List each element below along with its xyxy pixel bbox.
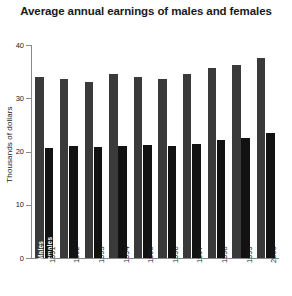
bar-males-1994 bbox=[109, 74, 118, 258]
bar-group-2000 bbox=[257, 45, 275, 258]
x-tick-label-1998: 1998 bbox=[220, 246, 229, 263]
plot-area: MalesFemales bbox=[32, 45, 278, 258]
bar-group-1991: MalesFemales bbox=[35, 45, 53, 258]
y-tick-0 bbox=[26, 258, 32, 259]
bar-males-1998 bbox=[208, 68, 217, 258]
bar-group-1992 bbox=[60, 45, 78, 258]
x-tick-label-1995: 1995 bbox=[146, 246, 155, 263]
y-tick-label-30: 30 bbox=[0, 95, 24, 102]
x-tick-label-2000: 2000 bbox=[269, 246, 278, 263]
bar-females-1994 bbox=[118, 146, 127, 258]
bar-group-1997 bbox=[183, 45, 201, 258]
bar-females-1997 bbox=[192, 144, 201, 258]
x-tick-label-1994: 1994 bbox=[122, 246, 131, 263]
x-tick-label-1991: 1991 bbox=[48, 246, 57, 263]
y-tick-label-20: 20 bbox=[0, 148, 24, 155]
x-tick-label-1996: 1996 bbox=[171, 246, 180, 263]
bar-group-1998 bbox=[208, 45, 226, 258]
y-tick-label-0: 0 bbox=[0, 255, 24, 262]
bar-chart: Average annual earnings of males and fem… bbox=[0, 0, 292, 296]
bar-males-2000 bbox=[257, 58, 266, 258]
bar-group-1996 bbox=[158, 45, 176, 258]
x-tick-label-1997: 1997 bbox=[195, 246, 204, 263]
bar-males-1996 bbox=[158, 79, 167, 258]
bar-females-1996 bbox=[168, 146, 177, 258]
y-tick-label-10: 10 bbox=[0, 201, 24, 208]
bar-males-1999 bbox=[232, 65, 241, 258]
bar-group-1999 bbox=[232, 45, 250, 258]
bar-group-1995 bbox=[134, 45, 152, 258]
y-axis-title: Thousands of dollars bbox=[5, 85, 14, 205]
bar-females-1991: Females bbox=[45, 148, 54, 258]
series-label-males: Males bbox=[36, 241, 43, 260]
x-tick-label-1992: 1992 bbox=[72, 246, 81, 263]
bar-females-1999 bbox=[241, 138, 250, 258]
bar-females-1993 bbox=[94, 147, 103, 258]
bar-males-1992 bbox=[60, 79, 69, 258]
bar-males-1997 bbox=[183, 74, 192, 258]
bar-males-1991: Males bbox=[35, 77, 44, 258]
bar-females-1992 bbox=[69, 146, 78, 258]
bar-females-1995 bbox=[143, 145, 152, 258]
bar-females-2000 bbox=[266, 133, 275, 258]
x-tick-label-1993: 1993 bbox=[97, 246, 106, 263]
x-tick-label-1999: 1999 bbox=[245, 246, 254, 263]
x-axis-line bbox=[31, 258, 279, 259]
bar-males-1993 bbox=[85, 82, 94, 258]
bar-group-1993 bbox=[85, 45, 103, 258]
bar-males-1995 bbox=[134, 77, 143, 258]
bar-group-1994 bbox=[109, 45, 127, 258]
chart-title: Average annual earnings of males and fem… bbox=[0, 4, 292, 18]
y-tick-label-40: 40 bbox=[0, 42, 24, 49]
bar-females-1998 bbox=[217, 140, 226, 258]
